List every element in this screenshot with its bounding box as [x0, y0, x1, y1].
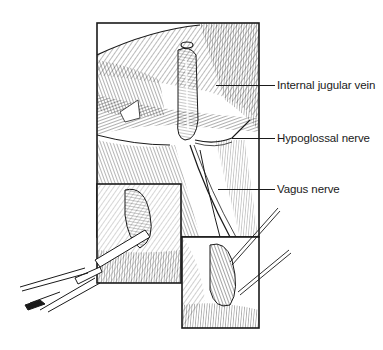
leader-vagus-nerve: [218, 189, 275, 190]
label-vagus-nerve: Vagus nerve: [277, 183, 340, 195]
label-internal-jugular-vein: Internal jugular vein: [277, 79, 375, 91]
label-hypoglossal-nerve: Hypoglossal nerve: [277, 132, 370, 144]
leader-internal-jugular-vein: [216, 85, 275, 86]
illustration: [0, 0, 383, 350]
inset-right-panel: [182, 237, 259, 328]
leader-hypoglossal-nerve: [232, 138, 275, 139]
